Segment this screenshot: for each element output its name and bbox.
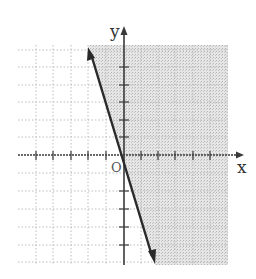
x-axis-label: x [237, 157, 247, 177]
inequality-graph: y x O [0, 0, 256, 279]
y-axis-arrow-icon [121, 26, 128, 35]
y-axis-label: y [109, 21, 120, 41]
origin-label: O [111, 160, 122, 175]
